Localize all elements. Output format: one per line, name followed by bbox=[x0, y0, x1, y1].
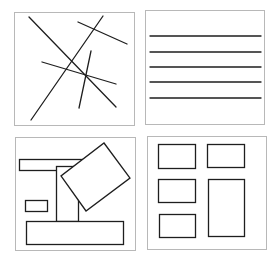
bottom-bar bbox=[27, 222, 124, 245]
diagram-canvas bbox=[0, 0, 277, 262]
box-1 bbox=[159, 145, 196, 169]
box-3 bbox=[159, 180, 196, 203]
small-box bbox=[26, 201, 48, 212]
box-4-tall bbox=[209, 180, 245, 237]
panel-intersecting-lines bbox=[15, 13, 135, 126]
panel-overlapping-shapes bbox=[16, 138, 136, 251]
box-2 bbox=[208, 145, 245, 168]
panel-grid-layout bbox=[148, 137, 267, 250]
box-5 bbox=[160, 215, 196, 238]
panel-parallel-lines bbox=[146, 11, 265, 125]
panel-frame bbox=[15, 13, 135, 126]
